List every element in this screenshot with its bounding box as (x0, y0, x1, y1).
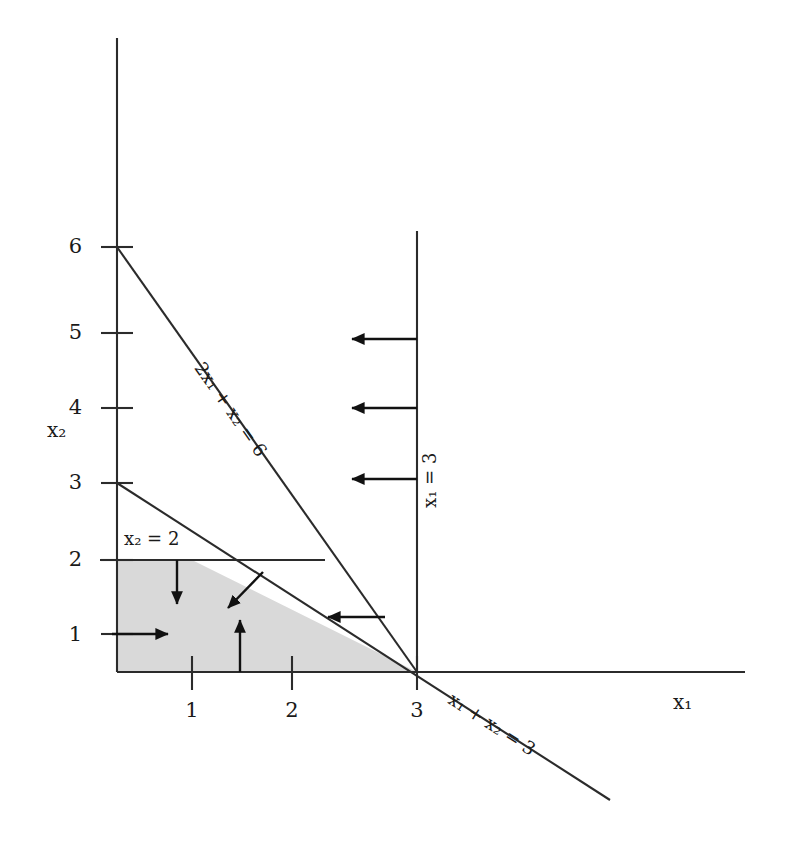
y-tick-label-3: 3 (56, 472, 82, 493)
x-tick-label-3: 3 (404, 700, 430, 721)
y-tick-label-6: 6 (56, 236, 82, 257)
y-tick-label-4: 4 (56, 397, 82, 418)
constraint-label-x1-eq-3: x₁ = 3 (421, 453, 439, 508)
y-axis-label: x₂ (47, 420, 66, 440)
x-axis-label: x₁ (673, 692, 692, 712)
y-tick-label-5: 5 (56, 322, 82, 343)
constraint-label-x2-eq-2: x₂ = 2 (124, 530, 179, 548)
x-tick-label-1: 1 (179, 700, 205, 721)
y-tick-label-1: 1 (56, 624, 82, 645)
y-tick-label-2: 2 (56, 549, 82, 570)
x-tick-label-2: 2 (279, 700, 305, 721)
plot-canvas (0, 0, 786, 852)
feasible-region-figure: 1 2 3 4 5 6 1 2 3 x₂ x₁ x₂ = 2 x₁ = 3 2x… (0, 0, 786, 852)
direction-arrows-x1-eq-3 (352, 339, 417, 479)
